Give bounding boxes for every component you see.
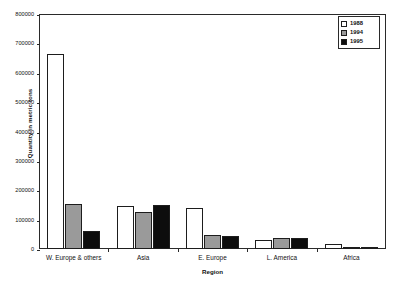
- x-axis-category-label: L. America: [267, 254, 297, 261]
- y-axis-tick-label: 500000: [0, 99, 34, 105]
- y-axis-tick-label: 100000: [0, 217, 34, 223]
- legend-swatch-icon: [341, 21, 347, 27]
- x-axis-title: Region: [39, 268, 386, 275]
- y-axis-tick-label: 400000: [0, 129, 34, 135]
- bar: [291, 238, 308, 249]
- chart-legend: 198819941995: [338, 16, 380, 49]
- y-axis-tick-label: 0: [0, 246, 34, 252]
- y-axis-tick-label: 600000: [0, 70, 34, 76]
- x-axis-tick-mark: [317, 249, 318, 252]
- legend-swatch-icon: [341, 30, 347, 36]
- bar-group: [325, 14, 378, 249]
- bar-group: [47, 14, 100, 249]
- y-axis-tick-label: 800000: [0, 11, 34, 17]
- x-axis-tick-mark: [247, 249, 248, 252]
- bar: [135, 212, 152, 249]
- x-axis-category-label: Asia: [137, 254, 149, 261]
- x-axis-tick-marks: [39, 249, 386, 253]
- legend-item: 1988: [341, 19, 377, 28]
- bar: [83, 231, 100, 250]
- y-axis-tick-label: 300000: [0, 158, 34, 164]
- bar: [47, 54, 64, 249]
- bar: [273, 238, 290, 249]
- bar: [222, 236, 239, 250]
- legend-item: 1995: [341, 37, 377, 46]
- bar-group: [255, 14, 308, 249]
- bars-area: [39, 14, 386, 249]
- x-axis-tick-mark: [178, 249, 179, 252]
- x-axis-category-label: W. Europe & others: [46, 254, 101, 261]
- legend-item-label: 1988: [350, 21, 363, 27]
- y-axis-tick-label: 700000: [0, 40, 34, 46]
- bar: [255, 240, 272, 249]
- legend-item-label: 1994: [350, 30, 363, 36]
- legend-swatch-icon: [341, 39, 347, 45]
- x-axis-tick-mark: [108, 249, 109, 252]
- bar: [204, 235, 221, 249]
- bar-group: [117, 14, 170, 249]
- legend-item-label: 1995: [350, 39, 363, 45]
- x-axis-category-labels: W. Europe & othersAsiaE. EuropeL. Americ…: [39, 254, 386, 266]
- y-axis-tick-labels: 0100000200000300000400000500000600000700…: [0, 0, 36, 291]
- bar: [117, 206, 134, 249]
- x-axis-category-label: Africa: [343, 254, 359, 261]
- bar-chart: Quantity in metric tons 0100000200000300…: [0, 0, 394, 291]
- bar-group: [186, 14, 239, 249]
- bar: [153, 205, 170, 249]
- legend-item: 1994: [341, 28, 377, 37]
- bar: [186, 208, 203, 249]
- y-axis-tick-label: 200000: [0, 187, 34, 193]
- bar: [65, 204, 82, 249]
- x-axis-category-label: E. Europe: [198, 254, 226, 261]
